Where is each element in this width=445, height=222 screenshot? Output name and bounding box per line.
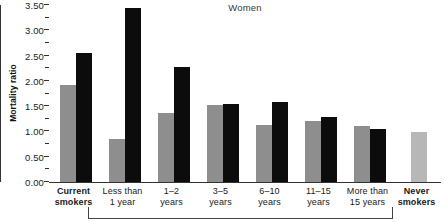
bar-1-2-years-series-black: [174, 67, 190, 182]
y-tick-label: 2.50: [4, 51, 44, 62]
bar-never-smokers-series-reference: [411, 132, 427, 182]
y-tick-major: [44, 4, 49, 5]
y-tick-minor: [45, 118, 49, 119]
y-tick-minor: [45, 168, 49, 169]
y-tick-major: [44, 105, 49, 106]
y-tick-label: 1.50: [4, 101, 44, 112]
x-label-line1: Current: [57, 186, 90, 196]
bar-6-10-years-series-black: [272, 102, 288, 182]
x-label-line2: smokers: [388, 197, 445, 208]
y-tick-major: [44, 29, 49, 30]
years-since-quitting-bracket: [88, 207, 393, 219]
y-tick-label: 2.00: [4, 76, 44, 87]
bar-3-5-years-series-gray: [207, 105, 223, 182]
x-label-line1: 11–15: [306, 186, 331, 196]
y-tick-label: 1.00: [4, 126, 44, 137]
bar-current-smokers-series-gray: [60, 85, 76, 182]
mortality-ratio-bar-chart: Women Mortality ratio 0.000.501.001.502.…: [0, 0, 445, 222]
y-tick-major: [44, 156, 49, 157]
x-label-never-smokers: Neversmokers: [388, 186, 445, 207]
x-axis-line: [49, 182, 441, 183]
y-tick-minor: [45, 17, 49, 18]
y-tick-major: [44, 80, 49, 81]
x-label-line1: 6–10: [259, 186, 279, 196]
x-label-line1: Never: [404, 186, 430, 196]
y-tick-label: 0.50: [4, 152, 44, 163]
y-tick-major: [44, 55, 49, 56]
x-label-line1: Less than: [103, 186, 143, 196]
y-tick-major: [44, 181, 49, 182]
bar-more-than-15-years-series-gray: [354, 126, 370, 182]
x-label-line1: More than: [347, 186, 388, 196]
bar-3-5-years-series-black: [223, 104, 239, 182]
y-tick-label: 3.50: [4, 0, 44, 11]
y-tick-major: [44, 130, 49, 131]
y-tick-minor: [45, 67, 49, 68]
y-tick-minor: [45, 143, 49, 144]
bar-1-2-years-series-gray: [158, 113, 174, 182]
bar-current-smokers-series-black: [76, 53, 92, 182]
y-axis-line: [0, 5, 1, 182]
y-tick-label: 0.00: [4, 177, 44, 188]
bar-less-than-1-year-series-gray: [109, 139, 125, 182]
y-tick-label: 3.00: [4, 25, 44, 36]
x-label-line1: 3–5: [213, 186, 228, 196]
bar-more-than-15-years-series-black: [370, 129, 386, 182]
bar-6-10-years-series-gray: [256, 125, 272, 182]
y-tick-minor: [45, 93, 49, 94]
x-label-line1: 1–2: [164, 186, 179, 196]
bar-11-15-years-series-black: [321, 117, 337, 182]
bar-11-15-years-series-gray: [305, 121, 321, 182]
y-tick-minor: [45, 42, 49, 43]
plot-area: 0.000.501.001.502.002.503.003.50: [49, 5, 441, 182]
bar-less-than-1-year-series-black: [125, 8, 141, 182]
